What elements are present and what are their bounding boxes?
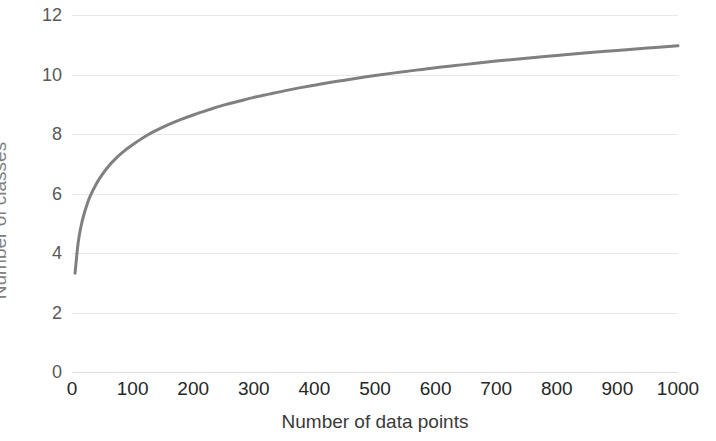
x-axis-tick-labels: 01002003004005006007008009001000 — [0, 378, 716, 408]
x-tick-label-900: 900 — [602, 378, 634, 400]
x-tick-label-300: 300 — [238, 378, 270, 400]
x-tick-label-800: 800 — [541, 378, 573, 400]
chart-container: Number of classes 024681012 010020030040… — [0, 0, 716, 441]
y-tick-label-10: 10 — [8, 64, 62, 85]
x-tick-label-400: 400 — [299, 378, 331, 400]
y-tick-label-12: 12 — [8, 5, 62, 26]
y-tick-label-4: 4 — [8, 243, 62, 264]
x-tick-label-700: 700 — [480, 378, 512, 400]
y-tick-label-2: 2 — [8, 302, 62, 323]
x-tick-label-1000: 1000 — [657, 378, 699, 400]
x-axis-title: Number of data points — [72, 411, 678, 433]
x-tick-label-0: 0 — [67, 378, 78, 400]
series-line-number-of-classes — [75, 46, 678, 274]
y-axis-tick-labels: 024681012 — [0, 0, 62, 441]
x-tick-label-100: 100 — [117, 378, 149, 400]
gridline-y-0 — [72, 372, 678, 373]
y-tick-label-6: 6 — [8, 183, 62, 204]
series-line-chart — [72, 15, 678, 372]
x-tick-label-200: 200 — [177, 378, 209, 400]
x-tick-label-500: 500 — [359, 378, 391, 400]
y-tick-label-8: 8 — [8, 124, 62, 145]
plot-area — [72, 15, 678, 372]
x-tick-label-600: 600 — [420, 378, 452, 400]
